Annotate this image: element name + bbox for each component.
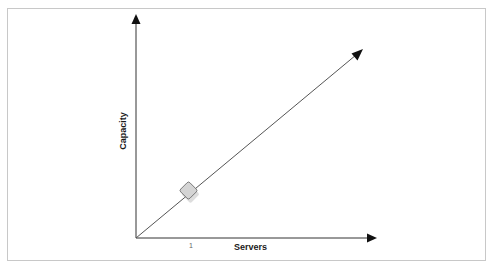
y-axis-arrow-icon xyxy=(132,14,141,24)
x-axis-label: Servers xyxy=(234,242,267,252)
capacity-line-arrow-icon xyxy=(352,49,364,61)
linear-scaling-diagram xyxy=(0,0,493,269)
capacity-line xyxy=(136,55,356,238)
data-point-marker xyxy=(179,181,199,203)
y-axis-label: Capacity xyxy=(118,112,128,150)
x-axis-arrow-icon xyxy=(367,234,377,243)
x-tick-label: 1 xyxy=(189,242,193,249)
